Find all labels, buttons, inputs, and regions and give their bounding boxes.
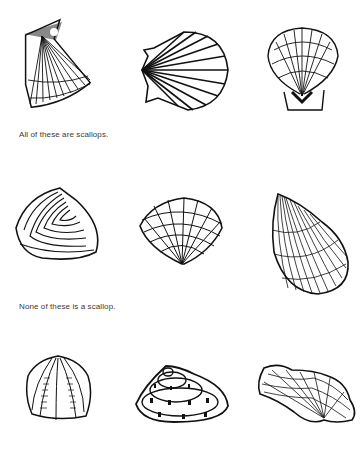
scallop-shell-sideways-icon bbox=[138, 26, 230, 112]
cockle-shell-grid-icon bbox=[138, 196, 224, 266]
caption-non-scallops: None of these is a scallop. bbox=[19, 302, 116, 311]
scallop-shell-upright-icon bbox=[266, 26, 340, 112]
mussel-shell-ribbed-icon bbox=[268, 192, 352, 296]
scallop-shell-tilted-icon bbox=[18, 18, 98, 110]
clam-shell-concentric-icon bbox=[14, 186, 100, 262]
caption-scallops: All of these are scallops. bbox=[19, 130, 108, 139]
ribbed-shell-icon bbox=[22, 354, 94, 422]
limpet-shell-conical-icon bbox=[134, 362, 230, 424]
wavy-net-shell-icon bbox=[254, 360, 360, 430]
